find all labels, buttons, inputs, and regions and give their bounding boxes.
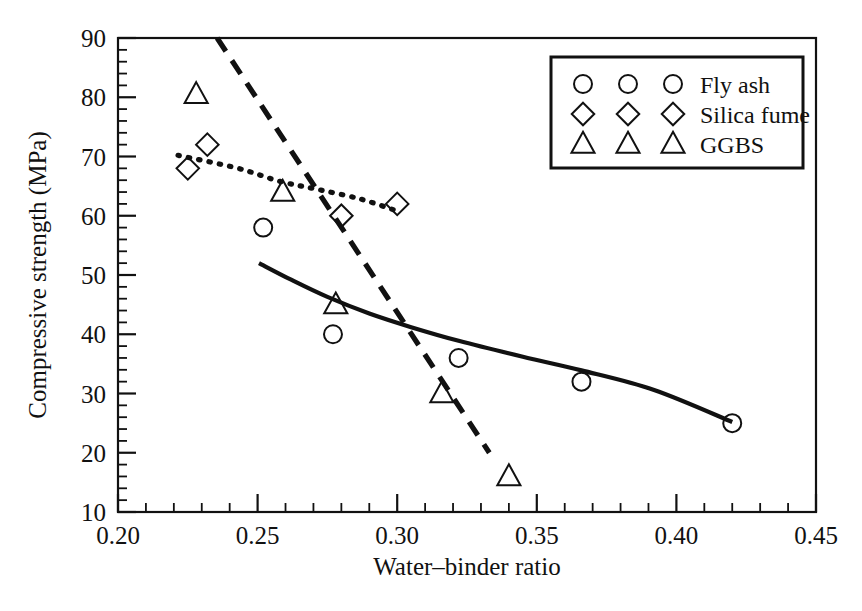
data-point-fly-ash [723,414,741,432]
x-tick-label: 0.35 [515,522,559,549]
data-point-fly-ash [324,325,342,343]
data-point-fly-ash [450,349,468,367]
compressive-strength-scatter-chart: 102030405060708090 0.200.250.300.350.400… [0,0,862,611]
x-tick-label: 0.30 [375,522,419,549]
y-axis-tick-labels: 102030405060708090 [81,25,106,526]
y-tick-label: 90 [81,25,106,52]
legend-label: GGBS [700,132,764,158]
data-point-fly-ash [254,219,272,237]
data-point-ggbs [497,464,520,485]
legend-label: Fly ash [700,72,770,98]
y-tick-label: 70 [81,144,106,171]
legend: Fly ashSilica fumeGGBS [551,57,810,168]
x-tick-label: 0.45 [794,522,838,549]
y-tick-label: 30 [81,381,106,408]
y-tick-label: 80 [81,84,106,111]
y-tick-label: 20 [81,440,106,467]
data-point-silica-fume [386,193,409,216]
y-tick-label: 40 [81,321,106,348]
data-point-silica-fume [177,157,200,180]
x-tick-label: 0.40 [655,522,699,549]
x-axis-tick-labels: 0.200.250.300.350.400.45 [96,522,838,549]
x-tick-label: 0.25 [236,522,280,549]
y-axis-title: Compressive strength (MPa) [24,131,52,418]
data-point-silica-fume [196,133,219,156]
legend-label: Silica fume [700,102,810,128]
y-tick-label: 60 [81,203,106,230]
chart-figure: 102030405060708090 0.200.250.300.350.400… [0,0,862,611]
x-axis-major-ticks [118,494,816,512]
fit-line-ggbs [217,38,489,453]
x-tick-label: 0.20 [96,522,140,549]
x-axis-minor-ticks [146,503,788,512]
data-point-ggbs [185,82,208,103]
x-axis-title: Water–binder ratio [373,553,561,580]
y-tick-label: 50 [81,262,106,289]
data-point-fly-ash [572,373,590,391]
fit-line-silica-fume [178,155,397,211]
